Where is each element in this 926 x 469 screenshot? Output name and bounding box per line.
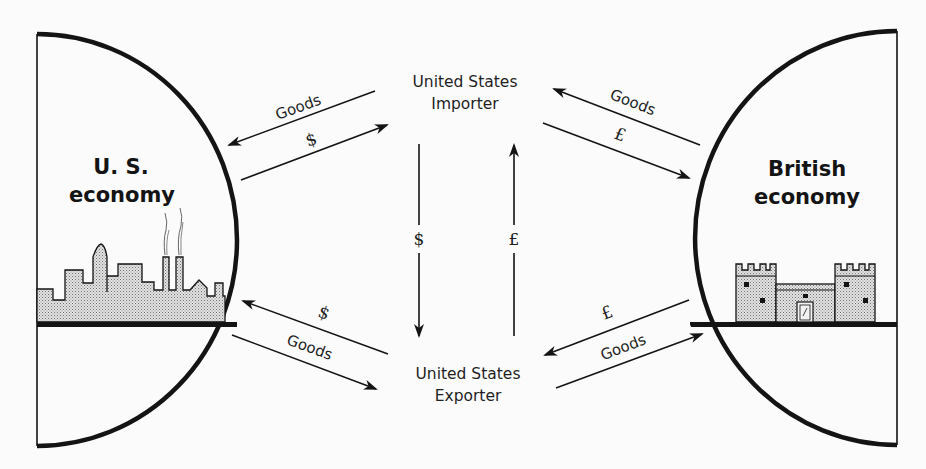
flow-us-to-exporter-goods: Goods (232, 331, 376, 389)
flow-label-goods: Goods (607, 85, 658, 119)
us-economy-node: U. S. economy (37, 34, 237, 446)
british-economy-node: British economy (690, 31, 897, 445)
exporter-label-line2: Exporter (435, 387, 502, 405)
flow-label-goods: Goods (284, 331, 335, 364)
us-economy-label-line1: U. S. (93, 155, 148, 179)
exporter-node: United States Exporter (416, 365, 521, 405)
dollar-sign-icon: $ (316, 301, 333, 323)
british-economy-label-line1: British (768, 157, 846, 181)
importer-node: United States Importer (413, 73, 518, 113)
importer-label-line2: Importer (431, 95, 499, 113)
flow-exporter-to-importer-pounds: £ (509, 145, 520, 336)
exporter-label-line1: United States (416, 365, 521, 383)
castle-icon (736, 264, 875, 322)
british-economy-label-line2: economy (754, 185, 860, 209)
flow-importer-to-exporter-dollars: $ (414, 144, 425, 336)
pound-sign-icon: £ (598, 301, 615, 324)
flow-label-goods: Goods (598, 330, 649, 364)
british-economy-boundary (695, 31, 897, 445)
british-ground-line (690, 322, 897, 327)
importer-label-line1: United States (413, 73, 518, 91)
dollar-sign-icon: $ (302, 128, 319, 150)
dollar-sign-icon: $ (414, 229, 425, 249)
flow-importer-to-us-goods: Goods (229, 91, 375, 145)
flow-importer-to-british-pounds: £ (543, 123, 689, 178)
us-economy-label-line2: economy (69, 183, 175, 207)
flow-exporter-to-british-goods: Goods (556, 330, 702, 388)
pound-sign-icon: £ (509, 229, 520, 249)
us-ground-line (37, 322, 237, 327)
pound-sign-icon: £ (612, 123, 629, 146)
us-economy-boundary (37, 34, 237, 446)
city-skyline-icon (37, 208, 225, 322)
international-trade-diagram: U. S. economy (0, 0, 926, 469)
